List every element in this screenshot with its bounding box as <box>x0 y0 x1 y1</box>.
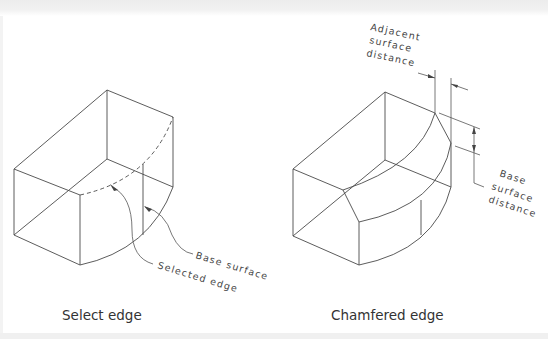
right-block-chamfered-edge: Adjacent surface distance Base surface d… <box>293 21 538 265</box>
chamfer-diagram: Base surface Selected edge <box>0 0 548 339</box>
caption-chamfered-edge: Chamfered edge <box>331 307 444 323</box>
caption-select-edge: Select edge <box>62 307 142 323</box>
left-block-select-edge: Base surface Selected edge <box>14 90 270 294</box>
